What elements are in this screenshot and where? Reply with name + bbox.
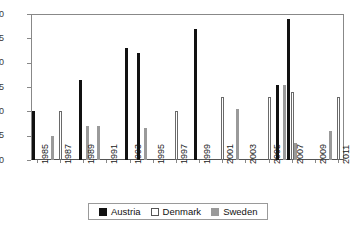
bar-denmark-1987 [59,111,62,160]
x-axis-tick-mark [130,160,131,163]
x-axis-tick-label: 2011 [342,145,351,164]
bar-sweden-2002 [236,109,239,160]
x-axis-tick-mark [222,160,223,163]
bar-chart: 051015202530 198519871989199119931995199… [0,0,356,230]
x-axis-tick-mark [269,160,270,163]
y-axis-tick-label: 5 [0,131,4,140]
x-axis-tick-mark [199,160,200,163]
x-axis-tick-label: 1991 [110,144,119,164]
x-axis-tick-mark [245,160,246,163]
legend-label: Denmark [163,207,202,217]
x-axis-tick-label: 2001 [226,144,235,164]
y-axis-tick-label: 25 [0,34,4,43]
x-axis-tick-mark [176,160,177,163]
bar-sweden-2006 [283,85,286,160]
bar-denmark-1997 [175,111,178,160]
legend-swatch-icon [99,208,107,216]
legend-item-sweden: Sweden [211,207,257,217]
x-axis-tick-mark [153,160,154,163]
bar-sweden-2010 [329,131,332,160]
x-axis-tick-mark [338,160,339,163]
legend-item-denmark: Denmark [151,207,202,217]
bar-sweden-1986 [51,136,54,160]
bar-denmark-2001 [221,97,224,160]
y-axis-tick-label: 30 [0,10,4,19]
x-axis-tick-label: 2009 [319,144,328,164]
x-axis-tick-mark [292,160,293,163]
legend-item-austria: Austria [99,207,141,217]
legend-swatch-icon [211,208,219,216]
legend-label: Austria [111,207,141,217]
x-axis-tick-label: 1999 [203,144,212,164]
x-axis-tick-label: 1989 [87,144,96,164]
x-axis-tick-mark [37,160,38,163]
x-axis-tick-label: 1993 [134,144,143,164]
bar-sweden-1994 [144,128,147,160]
bar-austria-2007 [287,19,290,160]
x-axis-tick-label: 2005 [273,144,282,164]
bar-austria-1993 [125,48,128,160]
legend-label: Sweden [223,207,257,217]
legend-swatch-icon [151,208,159,216]
x-axis-tick-mark [60,160,61,163]
y-axis-tick-label: 15 [0,83,4,92]
bar-austria-1989 [79,80,82,160]
bar-denmark-2011 [337,97,340,160]
bar-denmark-2005 [268,97,271,160]
y-axis-tick-label: 20 [0,58,4,67]
x-axis-tick-mark [106,160,107,163]
x-axis-tick-mark [315,160,316,163]
y-axis-tick-label: 10 [0,107,4,116]
x-axis-tick-label: 1985 [41,144,50,164]
y-axis-tick-label: 0 [0,156,4,165]
bar-austria-1999 [194,29,197,160]
bar-austria-1985 [32,111,35,160]
x-axis-tick-label: 1995 [157,144,166,164]
chart-legend: AustriaDenmarkSweden [88,203,268,220]
x-axis-tick-mark [83,160,84,163]
y-axis-tick-mark [27,160,31,161]
bar-denmark-2007 [291,92,294,160]
x-axis-tick-label: 1997 [180,144,189,164]
x-axis-tick-label: 1987 [64,144,73,164]
bar-sweden-1990 [97,126,100,160]
plot-area [31,14,344,160]
x-axis-tick-label: 2007 [296,144,305,164]
x-axis-tick-label: 2003 [249,144,258,164]
